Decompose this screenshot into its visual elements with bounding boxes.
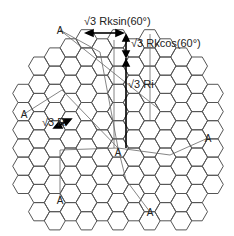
hex-grid	[13, 30, 224, 230]
hex-cell	[202, 175, 223, 193]
rksin-label: √3 Rksin(60°)	[84, 15, 151, 27]
r-label: √3 R	[42, 116, 65, 128]
hex-cell	[202, 103, 223, 121]
cell-label: A	[205, 133, 212, 144]
cell-label: A	[21, 109, 28, 120]
hex-cell	[187, 57, 208, 75]
ri-label: √3 Ri	[128, 78, 154, 90]
hex-cell	[202, 84, 223, 102]
cell-label: A	[147, 207, 154, 218]
hex-cell	[202, 157, 223, 175]
hex-cell-diagram: √3 Rksin(60°) √3 Rkcos(60°) √3 Ri √3 R A…	[0, 0, 234, 236]
hex-cell	[187, 203, 208, 221]
cell-label: A	[115, 147, 122, 158]
cell-label: A	[57, 195, 64, 206]
cell-label: A	[57, 25, 64, 36]
rkcos-label: √3 Rkcos(60°)	[131, 37, 201, 49]
